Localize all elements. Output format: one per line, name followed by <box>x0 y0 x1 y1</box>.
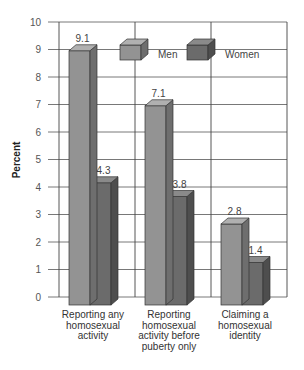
category-label: puberty only <box>142 341 196 352</box>
legend-label-women: Women <box>225 49 259 60</box>
y-tick-label: 3 <box>35 209 41 220</box>
bar-value-label: 2.8 <box>228 206 242 217</box>
y-tick-label: 9 <box>35 44 41 55</box>
y-tick-label: 10 <box>30 17 42 28</box>
bar-value-label: 3.8 <box>173 179 187 190</box>
category-label: Reporting <box>147 309 190 320</box>
category-label: Claiming a <box>221 309 269 320</box>
bar-chart: 012345678910Percent4.39.1Reporting anyho… <box>0 0 304 370</box>
bar-value-label: 9.1 <box>76 33 90 44</box>
category-label: identity <box>229 330 261 341</box>
y-tick-label: 5 <box>35 154 41 165</box>
y-axis-label: Percent <box>11 141 22 178</box>
bar-men: 9.1 <box>69 33 97 305</box>
category-label: homosexual <box>66 320 120 331</box>
y-tick-label: 1 <box>35 264 41 275</box>
y-tick-label: 0 <box>35 292 41 303</box>
category-label: activity <box>78 330 109 341</box>
bar-value-label: 1.4 <box>249 245 263 256</box>
legend-label-men: Men <box>158 49 177 60</box>
y-tick-label: 7 <box>35 99 41 110</box>
y-tick-label: 8 <box>35 72 41 83</box>
y-tick-label: 4 <box>35 182 41 193</box>
y-tick-label: 2 <box>35 237 41 248</box>
category-label: homosexual <box>218 320 272 331</box>
legend-swatch-women <box>187 39 215 60</box>
y-tick-label: 6 <box>35 127 41 138</box>
category-label: Reporting any <box>62 309 124 320</box>
legend-swatch-men <box>120 39 148 60</box>
bar-value-label: 4.3 <box>97 165 111 176</box>
bar-men: 7.1 <box>145 88 173 305</box>
category-label: homosexual <box>142 320 196 331</box>
bar-value-label: 7.1 <box>152 88 166 99</box>
bar-men: 2.8 <box>221 206 249 305</box>
category-label: activity before <box>138 330 200 341</box>
